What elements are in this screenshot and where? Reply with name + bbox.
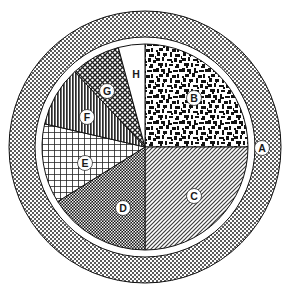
slice-label-a-text: A [258, 142, 266, 154]
pie-slices-group [42, 44, 248, 250]
slice-label-g-text: G [103, 85, 111, 97]
slice-label-d-text: D [119, 202, 127, 214]
slice-label-d: D [116, 201, 131, 216]
slice-label-c: C [187, 189, 202, 204]
slice-label-a: A [255, 141, 270, 156]
slice-label-b: B [187, 91, 202, 106]
slice-label-e: E [78, 156, 93, 171]
slice-label-g: G [100, 84, 115, 99]
pie-chart-svg: A B C D E F G [0, 0, 290, 298]
slice-label-h: H [132, 68, 140, 80]
slice-label-f-text: F [84, 111, 91, 123]
pie-chart-figure: A B C D E F G [0, 0, 290, 298]
slice-label-h-text: H [132, 68, 140, 80]
slice-label-f: F [80, 110, 95, 125]
slice-label-c-text: C [190, 190, 198, 202]
slice-label-e-text: E [81, 157, 88, 169]
slice-label-b-text: B [190, 92, 198, 104]
